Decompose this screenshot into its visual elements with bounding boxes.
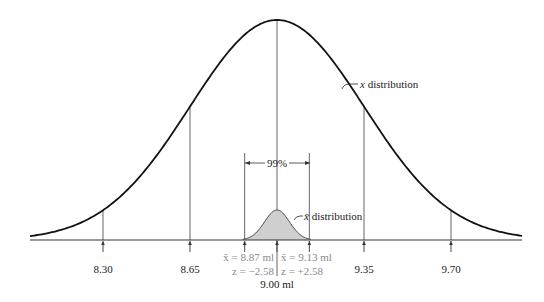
- ci-upper-xbar-label: x̄ = 9.13 ml: [281, 251, 332, 263]
- population-label: x distribution: [359, 78, 419, 90]
- population-distribution-curve: [30, 20, 522, 236]
- ci-upper-z-label: z = +2.58: [281, 265, 324, 277]
- ci-upper-arrow-head: [308, 241, 312, 245]
- tick-arrow-9-35-head: [362, 241, 366, 245]
- sampling-label-leader: [294, 216, 303, 220]
- tick-arrow-8-65-head: [188, 241, 192, 245]
- mean-arrow-head: [275, 241, 279, 245]
- distribution-diagram: x distribution x̄ distribution 99% x̄ = …: [0, 0, 544, 302]
- ci-lower-arrow-head: [243, 241, 247, 245]
- tick-arrow-8-30-head: [101, 241, 105, 245]
- tick-label: 8.65: [180, 263, 200, 275]
- sampling-label: x̄ distribution: [303, 210, 363, 222]
- tick-arrow-9-70-head: [449, 241, 453, 245]
- tick-label: 9.70: [441, 263, 461, 275]
- tick-label: 8.30: [93, 263, 113, 275]
- confidence-label: 99%: [267, 157, 287, 169]
- ci-lower-xbar-label: x̄ = 8.87 ml: [223, 251, 274, 263]
- tick-label: 9.35: [354, 263, 374, 275]
- center-label: 9.00 ml: [260, 278, 294, 290]
- ci-lower-z-label: z = −2.58: [232, 265, 275, 277]
